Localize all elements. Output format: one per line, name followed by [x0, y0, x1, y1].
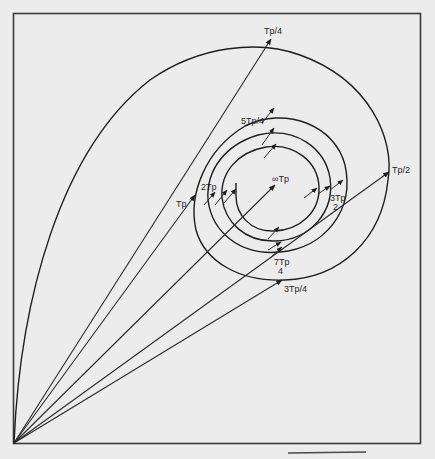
vector-tp2 [14, 172, 389, 443]
label-tp: Tp [176, 199, 187, 209]
trajectory-outer-loop [14, 47, 389, 443]
spiral-diagram: Tp/4 5Tp/4 2Tp Tp ∞Tp Tp/2 3Tp 2 7Tp 4 3… [0, 0, 435, 459]
label-tp2: Tp/2 [392, 165, 410, 175]
trajectory-ring-2 [208, 133, 331, 241]
trajectory-ring-1 [194, 118, 347, 252]
diagram-frame [14, 14, 421, 444]
label-3tp2-den: 2 [333, 202, 338, 212]
label-tp4: Tp/4 [264, 26, 282, 36]
decorative-underline [288, 452, 366, 453]
arrow-ring2-left [215, 190, 227, 205]
label-infinity: ∞Tp [272, 174, 289, 184]
vector-3tp4 [14, 280, 282, 443]
arrow-ring3-bottom [268, 227, 279, 239]
arrow-ring1-right [330, 180, 343, 190]
label-3tp4: 3Tp/4 [284, 284, 307, 294]
arrow-ring2-top [262, 128, 274, 145]
label-5tp4: 5Tp/4 [241, 116, 264, 126]
arrow-ring2-right [318, 186, 330, 194]
vector-tp [14, 195, 195, 443]
arrow-7tp4 [268, 242, 281, 250]
arrow-2tp [204, 192, 215, 205]
label-7tp4-den: 4 [278, 266, 283, 276]
label-2tp: 2Tp [201, 182, 217, 192]
vector-infinity [14, 185, 275, 443]
arrow-ring3-right [304, 188, 317, 198]
